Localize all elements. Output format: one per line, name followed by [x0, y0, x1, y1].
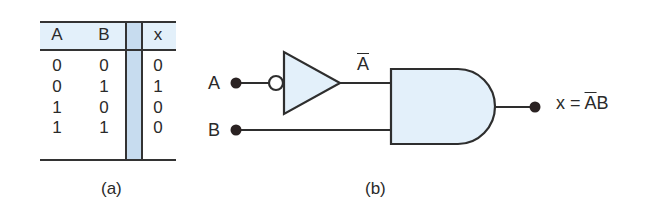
output-expression-complement: A: [585, 93, 597, 113]
inverter-output-label: A: [357, 54, 369, 74]
inversion-bubble: [269, 76, 283, 90]
output-expression-suffix: B: [597, 93, 609, 113]
input-b-terminal: [231, 125, 242, 136]
input-a-label: A: [208, 73, 220, 93]
output-expression-prefix: x =: [556, 93, 585, 113]
output-terminal: [530, 102, 541, 113]
output-expression: x = AB: [556, 93, 609, 113]
and-gate: [391, 69, 495, 144]
input-b-label: B: [208, 120, 220, 140]
caption-b: (b): [365, 179, 386, 199]
input-a-terminal: [231, 78, 242, 89]
inverter-triangle: [284, 52, 340, 114]
logic-circuit: [0, 0, 648, 215]
